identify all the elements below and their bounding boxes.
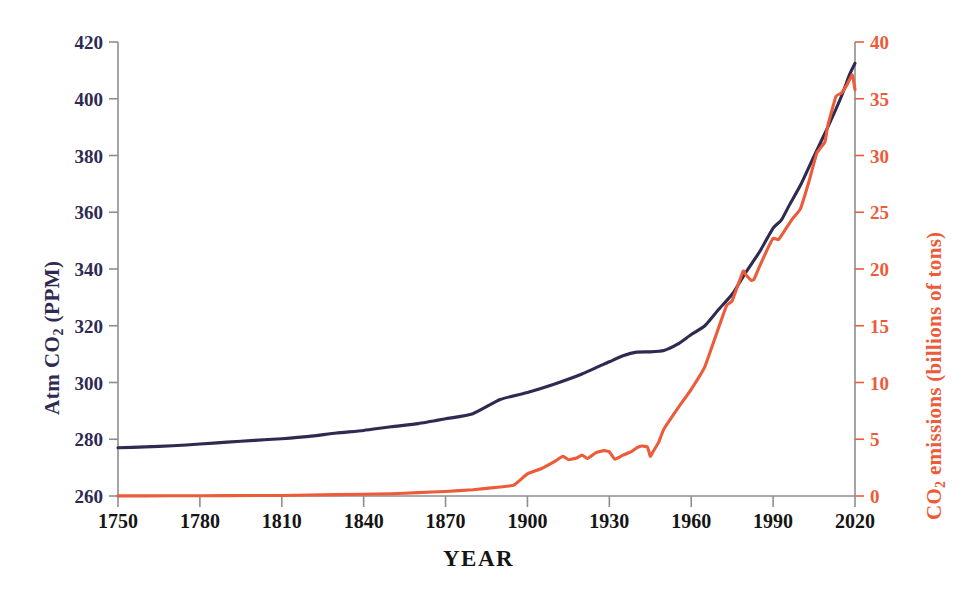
y-axis-right-tick-label: 35 <box>870 89 889 110</box>
right-title-pre: CO <box>922 488 946 520</box>
y-axis-left-tick-label: 280 <box>75 429 104 450</box>
x-axis-tick-label: 1900 <box>507 510 547 532</box>
x-axis-tick-label: 1990 <box>753 510 793 532</box>
series-line-co2-emissions <box>118 75 855 496</box>
y-axis-left-tick-label: 260 <box>75 486 104 507</box>
y-axis-left-tick-label: 360 <box>75 202 104 223</box>
x-axis-tick-label: 1840 <box>344 510 384 532</box>
y-axis-right-tick-label: 20 <box>870 259 889 280</box>
x-axis-tick-label: 1780 <box>180 510 220 532</box>
y-axis-right-tick-label: 5 <box>870 429 880 450</box>
y-axis-left-title: Atm CO2 (PPM) <box>40 260 67 415</box>
plot-area: 2602803003203403603804004200510152025303… <box>0 0 970 595</box>
axes-group <box>109 42 864 507</box>
y-axis-left-tick-label: 420 <box>75 32 104 53</box>
y-axis-right-tick-label: 40 <box>870 32 889 53</box>
left-title-subscript: 2 <box>51 328 66 335</box>
y-axis-right-title: CO2 emissions (billions of tons) <box>922 232 949 520</box>
x-axis-tick-label: 1750 <box>98 510 138 532</box>
y-axis-right-tick-label: 10 <box>870 373 889 394</box>
y-axis-right-tick-label: 0 <box>870 486 880 507</box>
series-line-co2-concentration <box>118 63 855 447</box>
y-axis-right-tick-label: 30 <box>870 146 889 167</box>
x-axis-tick-label: 1930 <box>589 510 629 532</box>
x-axis-tick-label: 1960 <box>671 510 711 532</box>
y-axis-right-tick-label: 25 <box>870 202 889 223</box>
x-axis-tick-label: 1810 <box>262 510 302 532</box>
x-axis-tick-label: 1870 <box>426 510 466 532</box>
y-axis-left-tick-label: 320 <box>75 316 104 337</box>
x-axis-tick-label: 2020 <box>835 510 875 532</box>
right-title-post: emissions (billions of tons) <box>922 232 946 481</box>
y-axis-left-tick-label: 400 <box>75 89 104 110</box>
y-axis-left-tick-label: 300 <box>75 373 104 394</box>
x-axis-title: YEAR <box>443 546 514 572</box>
tick-labels-group: 2602803003203403603804004200510152025303… <box>75 32 890 532</box>
left-title-post: (PPM) <box>40 260 64 328</box>
chart-figure: Atm CO2 (PPM) CO2 emissions (billions of… <box>0 0 970 595</box>
left-title-pre: Atm CO <box>40 336 64 415</box>
right-title-subscript: 2 <box>933 481 948 488</box>
y-axis-left-tick-label: 340 <box>75 259 104 280</box>
y-axis-left-tick-label: 380 <box>75 146 104 167</box>
y-axis-right-tick-label: 15 <box>870 316 889 337</box>
